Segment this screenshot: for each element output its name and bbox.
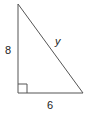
right-angle-marker xyxy=(18,84,27,93)
right-triangle-diagram: 8 y 6 xyxy=(0,0,93,118)
hypotenuse-label: y xyxy=(54,35,62,47)
vertical-leg-label: 8 xyxy=(5,44,11,56)
triangle xyxy=(18,4,83,93)
horizontal-leg-label: 6 xyxy=(47,99,53,111)
